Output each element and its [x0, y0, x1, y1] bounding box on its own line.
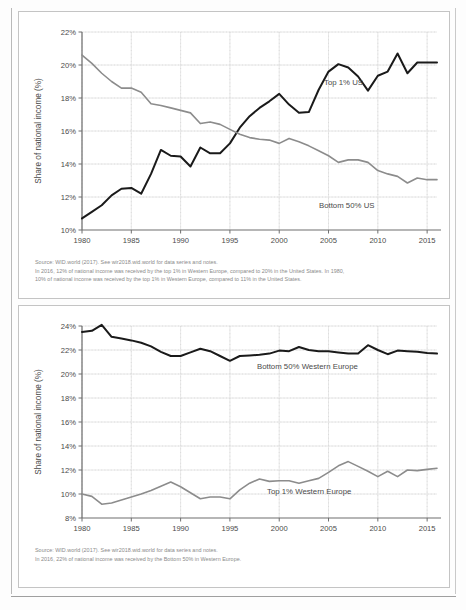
x-tick-label: 1980 [74, 236, 91, 245]
caption-source-line: Source: WID.world (2017). See wir2018.wi… [35, 546, 439, 555]
x-tick-label: 1995 [221, 236, 238, 245]
x-tick-label: 1980 [74, 524, 91, 533]
y-tick-label: 12% [61, 193, 76, 202]
chart-panel-us: 10%12%14%16%18%20%22%1980198519901995200… [18, 11, 450, 299]
y-axis-title: Share of national income (%) [34, 78, 43, 184]
western-europe-income-share-chart: 8%10%12%14%16%18%20%22%24%19801985199019… [19, 306, 449, 587]
y-tick-label: 18% [61, 94, 76, 103]
x-tick-label: 2010 [369, 236, 386, 245]
us-income-share-chart: 10%12%14%16%18%20%22%1980198519901995200… [19, 12, 449, 298]
y-tick-label: 24% [61, 322, 76, 331]
y-tick-label: 18% [61, 394, 76, 403]
chart-caption-us: Source: WID.world (2017). See wir2018.wi… [35, 258, 439, 284]
y-tick-label: 16% [61, 418, 76, 427]
series-annotation-bottom50-we: Bottom 50% Western Europe [257, 362, 358, 371]
page-edge-bottom [11, 596, 456, 597]
y-tick-label: 10% [61, 490, 76, 499]
chart-caption-western-europe: Source: WID.world (2017). See wir2018.wi… [35, 546, 439, 563]
series-annotation-bottom50-us: Bottom 50% US [319, 201, 374, 210]
y-tick-label: 12% [61, 466, 76, 475]
x-tick-label: 2015 [419, 236, 436, 245]
x-tick-label: 1990 [172, 524, 189, 533]
y-axis-title: Share of national income (%) [34, 369, 43, 475]
page-edge-right [455, 8, 456, 594]
y-tick-label: 22% [61, 346, 76, 355]
series-line [82, 325, 437, 361]
x-tick-label: 1985 [123, 236, 140, 245]
caption-note-line-1: In 2016, 22% of national income was rece… [35, 555, 439, 564]
series-annotation-top1-we: Top 1% Western Europe [267, 487, 351, 496]
y-tick-label: 14% [61, 442, 76, 451]
y-tick-label: 22% [61, 28, 76, 37]
x-tick-label: 1990 [172, 236, 189, 245]
x-tick-label: 1995 [221, 524, 238, 533]
x-tick-label: 2005 [320, 524, 337, 533]
y-tick-label: 8% [65, 514, 76, 523]
y-tick-label: 20% [61, 61, 76, 70]
y-tick-label: 16% [61, 127, 76, 136]
x-tick-label: 1985 [123, 524, 140, 533]
caption-source-line: Source: WID.world (2017). See wir2018.wi… [35, 258, 439, 267]
series-line [82, 462, 437, 505]
page-edge-left [11, 8, 12, 594]
y-tick-label: 20% [61, 370, 76, 379]
y-tick-label: 10% [61, 226, 76, 235]
x-tick-label: 2000 [271, 236, 288, 245]
x-tick-label: 2005 [320, 236, 337, 245]
scanned-page: 10%12%14%16%18%20%22%1980198519901995200… [0, 0, 466, 610]
caption-note-line-2: 10% of national income was received by t… [35, 275, 439, 284]
x-tick-label: 2000 [271, 524, 288, 533]
chart-panel-western-europe: 8%10%12%14%16%18%20%22%24%19801985199019… [18, 305, 450, 588]
caption-note-line-1: In 2016, 12% of national income was rece… [35, 267, 439, 276]
series-annotation-top1-us: Top 1% US [324, 78, 363, 87]
series-line [82, 53, 437, 218]
x-tick-label: 2015 [419, 524, 436, 533]
x-tick-label: 2010 [369, 524, 386, 533]
y-tick-label: 14% [61, 160, 76, 169]
